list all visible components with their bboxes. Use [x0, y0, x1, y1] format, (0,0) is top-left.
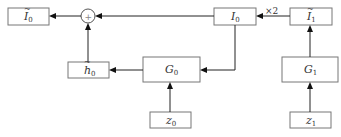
- block-diagram: I0 ~ + I0 I1 ~ ×2 h0 ~ G0 G1 z0 z1: [0, 0, 341, 137]
- node-z1: z1: [290, 112, 331, 128]
- svg-text:+: +: [85, 12, 93, 22]
- node-I1-tilde: I1 ~: [290, 5, 332, 25]
- node-z0: z0: [150, 112, 191, 128]
- node-G1: G1: [282, 57, 338, 82]
- node-G0: G0: [143, 57, 200, 82]
- tilde-mark: ~: [24, 5, 31, 14]
- node-I0: I0: [214, 8, 256, 25]
- scale-label: ×2: [265, 6, 278, 16]
- tilde-mark: ~: [84, 58, 91, 67]
- node-I0-tilde: I0 ~: [8, 5, 49, 25]
- sum-node: +: [81, 9, 95, 23]
- tilde-mark: ~: [307, 5, 314, 14]
